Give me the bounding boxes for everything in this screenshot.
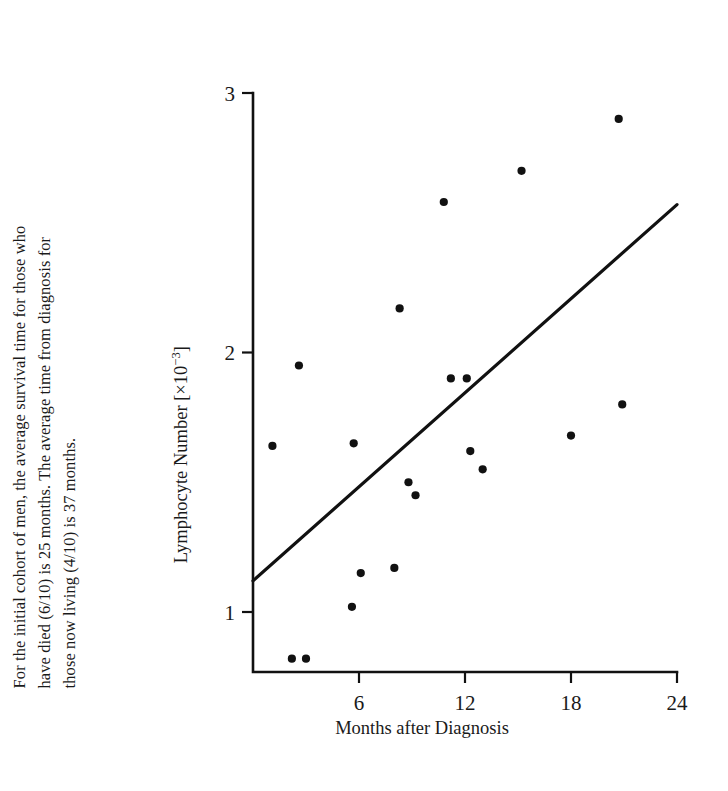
x-tick-group: 6121824 <box>354 672 688 715</box>
data-point <box>302 655 310 663</box>
data-point <box>440 198 448 206</box>
x-tick-label: 6 <box>354 691 365 715</box>
caption-line-3: those now living (4/10) is 37 months. <box>62 437 79 688</box>
data-point <box>411 491 419 499</box>
x-tick-label: 12 <box>455 691 476 715</box>
y-tick-group: 123 <box>225 82 254 625</box>
y-tick-label: 3 <box>225 82 236 106</box>
caption-line-2: have died (6/10) is 25 months. The avera… <box>37 236 54 688</box>
data-point <box>350 439 358 447</box>
data-point <box>466 447 474 455</box>
data-point <box>396 304 404 312</box>
data-point <box>295 361 303 369</box>
data-point <box>447 374 455 382</box>
x-tick-label: 18 <box>561 691 582 715</box>
data-point <box>517 167 525 175</box>
y-tick-label: 1 <box>225 601 236 625</box>
data-point <box>390 564 398 572</box>
y-tick-label: 2 <box>225 341 236 365</box>
figure-caption: For the initial cohort of men, the avera… <box>0 0 116 700</box>
scatter-chart: Lymphocyte Number [×10−3] 123 6121824 Mo… <box>116 0 728 791</box>
data-point <box>567 431 575 439</box>
data-points-group <box>268 115 626 663</box>
data-point <box>268 442 276 450</box>
data-point <box>288 655 296 663</box>
data-point <box>479 465 487 473</box>
plot-canvas: 123 6121824 <box>116 0 728 720</box>
data-point <box>615 115 623 123</box>
data-point <box>618 400 626 408</box>
regression-line-group <box>253 205 677 581</box>
data-point <box>404 478 412 486</box>
x-tick-label: 24 <box>667 691 689 715</box>
axis-spine <box>253 93 677 672</box>
axes-group: 123 6121824 <box>225 82 689 716</box>
caption-line-1: For the initial cohort of men, the avera… <box>12 225 29 688</box>
data-point <box>357 569 365 577</box>
data-point <box>463 374 471 382</box>
data-point <box>348 603 356 611</box>
regression-line <box>253 205 677 581</box>
x-axis-title: Months after Diagnosis <box>116 718 728 739</box>
